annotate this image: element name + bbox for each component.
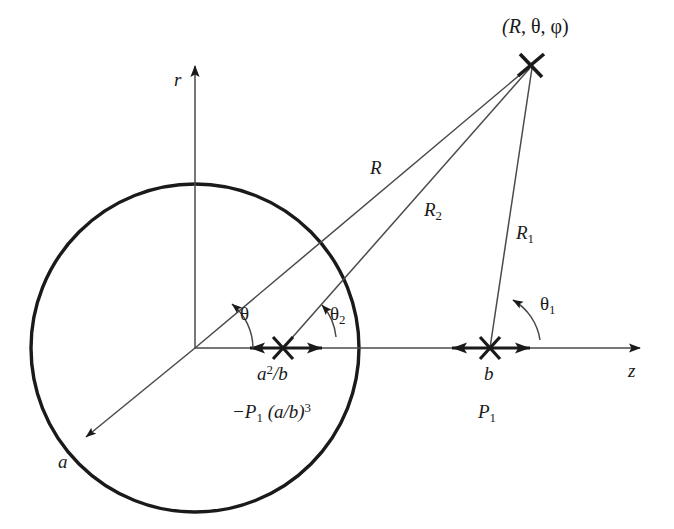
ray-R2-line xyxy=(283,68,530,348)
radius-a-arrow xyxy=(86,348,195,437)
field-point-label: (R, θ, φ) xyxy=(502,16,569,36)
angle-theta1-arc xyxy=(513,300,540,340)
ray-R2-base: R xyxy=(424,199,436,220)
field-point-phi: φ xyxy=(550,15,562,37)
ray-R2-sub: 2 xyxy=(436,208,442,223)
image-dipole-moment-paren: (a/b) xyxy=(263,401,305,422)
image-dipole-moment-prefix: −P xyxy=(232,401,256,422)
field-point-paren-close: ) xyxy=(562,15,569,37)
angle-theta1-label: θ1 xyxy=(540,294,556,317)
z-axis-label: z xyxy=(628,361,635,380)
ray-R2-label: R2 xyxy=(424,200,442,223)
field-point-paren-open: ( xyxy=(502,15,509,37)
ray-R1-label: R1 xyxy=(516,223,534,246)
image-dipole-moment-sup: 3 xyxy=(305,400,311,415)
angle-theta-base: θ xyxy=(240,303,249,324)
ray-R1-sub: 1 xyxy=(528,231,534,246)
source-dipole-moment-label: P1 xyxy=(478,402,496,425)
ray-R-label: R xyxy=(370,158,382,177)
figure-canvas: r z a (R, θ, φ) R R2 R1 θ θ2 θ1 a2/b −P1… xyxy=(0,0,674,529)
angle-theta1-sub: 1 xyxy=(549,302,555,317)
field-point-R: R xyxy=(509,15,521,37)
diagram-svg xyxy=(0,0,674,529)
image-dipole-pos-tail: /b xyxy=(273,363,288,384)
image-dipole-pos-base: a xyxy=(257,363,267,384)
angle-theta2-base: θ xyxy=(330,303,339,324)
angle-theta2-label: θ2 xyxy=(330,304,346,327)
image-dipole-position-label: a2/b xyxy=(257,364,288,383)
angle-theta-label: θ xyxy=(240,304,249,323)
r-axis-label: r xyxy=(174,70,181,89)
ray-R-base: R xyxy=(370,157,382,178)
source-dipole-moment-base: P xyxy=(478,401,490,422)
angle-theta2-sub: 2 xyxy=(339,312,345,327)
field-point-sep1: , xyxy=(521,15,531,37)
source-dipole-position-label: b xyxy=(484,364,494,383)
radius-a-label: a xyxy=(58,452,68,471)
ray-R1-line xyxy=(490,68,532,348)
angle-theta1-base: θ xyxy=(540,293,549,314)
source-dipole-moment-sub: 1 xyxy=(490,410,496,425)
field-point-sep2: , xyxy=(540,15,550,37)
image-dipole-moment-label: −P1 (a/b)3 xyxy=(232,402,311,425)
ray-R1-base: R xyxy=(516,222,528,243)
